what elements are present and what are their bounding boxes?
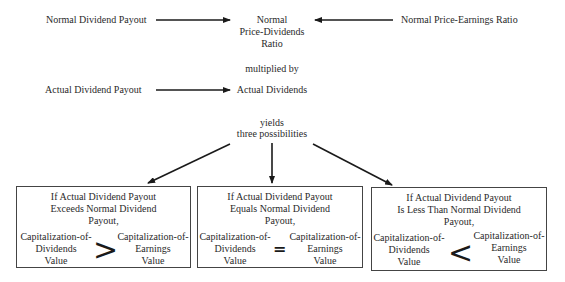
actual-dividend-payout-label: Actual Dividend Payout xyxy=(45,84,142,96)
earnings-value-label: Capitalization-of- Earnings Value xyxy=(286,231,364,267)
normal-pd-line1: Normal xyxy=(222,14,322,26)
condition-line: If Actual Dividend Payout xyxy=(198,191,362,203)
outcome-condition: If Actual Dividend Payout Is Less Than N… xyxy=(372,192,546,228)
condition-line: If Actual Dividend Payout xyxy=(17,191,190,203)
dividends-value-label: Capitalization-of- Dividends Value xyxy=(198,231,272,267)
rhs-line: Value xyxy=(470,254,548,266)
rhs-line: Capitalization-of- xyxy=(115,231,191,243)
rhs-line: Value xyxy=(115,255,191,267)
lhs-line: Value xyxy=(19,255,93,267)
condition-line: Payout, xyxy=(372,216,546,228)
outcome-box-less: If Actual Dividend Payout Is Less Than N… xyxy=(371,187,547,271)
arrow-to-outcome-exceeds xyxy=(148,144,230,183)
lhs-line: Dividends xyxy=(198,243,272,255)
lhs-line: Value xyxy=(198,255,272,267)
lhs-line: Value xyxy=(372,256,446,268)
rhs-line: Capitalization-of- xyxy=(286,231,364,243)
condition-line: Exceeds Normal Dividend xyxy=(17,203,190,215)
rhs-line: Earnings xyxy=(115,243,191,255)
condition-line: Payout, xyxy=(17,215,190,227)
arrow-to-outcome-less xyxy=(313,144,392,185)
earnings-value-label: Capitalization-of- Earnings Value xyxy=(470,230,548,266)
rhs-line: Value xyxy=(286,255,364,267)
normal-pd-line2: Price-Dividends xyxy=(222,26,322,38)
dividends-value-label: Capitalization-of- Dividends Value xyxy=(19,231,93,267)
multiplied-by-label: multiplied by xyxy=(222,63,322,75)
condition-line: Payout, xyxy=(198,215,362,227)
outcome-box-exceeds: If Actual Dividend Payout Exceeds Normal… xyxy=(16,186,191,268)
outcome-box-equals: If Actual Dividend Payout Equals Normal … xyxy=(197,186,363,268)
outcome-condition: If Actual Dividend Payout Equals Normal … xyxy=(198,191,362,227)
condition-line: Is Less Than Normal Dividend xyxy=(372,204,546,216)
rhs-line: Earnings xyxy=(470,242,548,254)
condition-line: Equals Normal Dividend xyxy=(198,203,362,215)
earnings-value-label: Capitalization-of- Earnings Value xyxy=(115,231,191,267)
normal-pd-ratio-node: Normal Price-Dividends Ratio xyxy=(222,14,322,50)
normal-pe-ratio-label: Normal Price-Earnings Ratio xyxy=(401,14,518,26)
rhs-line: Capitalization-of- xyxy=(470,230,548,242)
three-possibilities-label: three possibilities xyxy=(212,128,332,140)
lhs-line: Capitalization-of- xyxy=(198,231,272,243)
lhs-line: Capitalization-of- xyxy=(372,232,446,244)
lhs-line: Dividends xyxy=(19,243,93,255)
lhs-line: Dividends xyxy=(372,244,446,256)
dividends-value-label: Capitalization-of- Dividends Value xyxy=(372,232,446,268)
rhs-line: Earnings xyxy=(286,243,364,255)
equals-operator: = xyxy=(273,239,286,259)
normal-pd-line3: Ratio xyxy=(222,38,322,50)
normal-dividend-payout-label: Normal Dividend Payout xyxy=(46,14,147,26)
actual-dividends-node: Actual Dividends xyxy=(222,84,322,96)
lhs-line: Capitalization-of- xyxy=(19,231,93,243)
condition-line: If Actual Dividend Payout xyxy=(372,192,546,204)
outcome-condition: If Actual Dividend Payout Exceeds Normal… xyxy=(17,191,190,227)
